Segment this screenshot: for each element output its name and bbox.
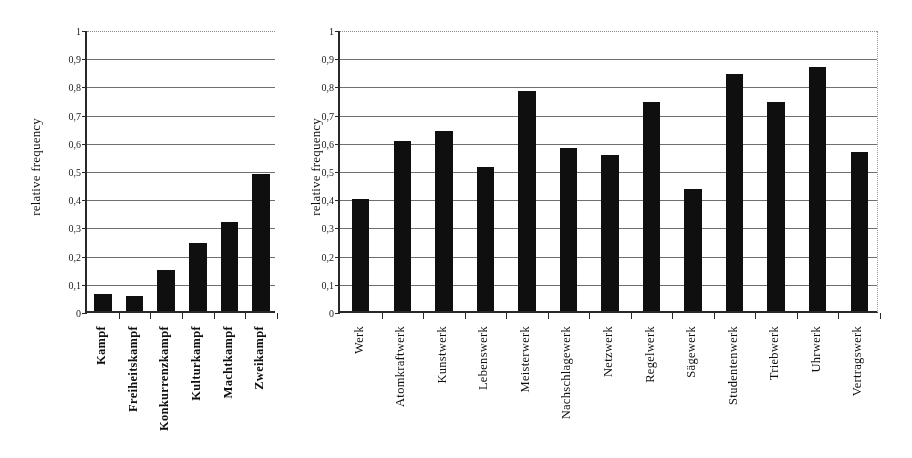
- x-tick-mark: [838, 313, 839, 319]
- x-axis-label: Nachschlagewerk: [559, 326, 574, 419]
- x-axis-label: Werk: [352, 326, 367, 354]
- x-tick-mark: [880, 313, 881, 319]
- bar: [477, 167, 494, 311]
- bar: [767, 102, 784, 311]
- y-tick-mark: [335, 144, 340, 145]
- x-axis-label: Konkurrenzkampf: [157, 326, 172, 431]
- x-axis-label: Vertragswerk: [850, 326, 865, 396]
- y-tick-label: 1: [76, 26, 81, 37]
- x-axis-label: Uhrwerk: [809, 326, 824, 373]
- chart-panel-werk: relative frequency 00,10,20,30,40,50,60,…: [300, 0, 912, 458]
- y-tick-mark: [82, 200, 87, 201]
- plot-area-werk: 00,10,20,30,40,50,60,70,80,91: [338, 31, 878, 313]
- x-tick-mark: [119, 313, 120, 319]
- y-tick-mark: [82, 285, 87, 286]
- gridline: [87, 285, 275, 286]
- x-tick-mark: [755, 313, 756, 319]
- gridline: [340, 31, 877, 32]
- y-tick-label: 0,3: [69, 223, 82, 234]
- gridline: [87, 144, 275, 145]
- bar-chart-figure: relative frequency 00,10,20,30,40,50,60,…: [0, 0, 912, 458]
- y-tick-label: 0,7: [69, 110, 82, 121]
- x-tick-mark: [589, 313, 590, 319]
- gridline: [340, 59, 877, 60]
- gridline: [340, 116, 877, 117]
- bar: [157, 270, 174, 311]
- plot-area-kampf: 00,10,20,30,40,50,60,70,80,91: [85, 31, 275, 313]
- y-tick-label: 0,7: [322, 110, 335, 121]
- x-axis-label: Regelwerk: [643, 326, 658, 383]
- y-tick-mark: [82, 87, 87, 88]
- y-tick-label: 0,2: [69, 251, 82, 262]
- gridline: [87, 116, 275, 117]
- y-tick-mark: [335, 31, 340, 32]
- y-tick-label: 0,8: [322, 82, 335, 93]
- y-tick-label: 0,5: [69, 167, 82, 178]
- y-tick-mark: [82, 172, 87, 173]
- x-tick-mark: [714, 313, 715, 319]
- y-tick-label: 0,2: [322, 251, 335, 262]
- bar: [851, 152, 868, 311]
- x-axis-label: Netzwerk: [601, 326, 616, 377]
- x-tick-mark: [465, 313, 466, 319]
- y-tick-mark: [335, 285, 340, 286]
- bar: [394, 141, 411, 311]
- gridline: [87, 87, 275, 88]
- x-axis-label: Zweikampf: [252, 326, 267, 390]
- bar: [601, 155, 618, 312]
- y-tick-mark: [82, 31, 87, 32]
- bar: [726, 74, 743, 311]
- y-tick-mark: [82, 59, 87, 60]
- x-tick-mark: [506, 313, 507, 319]
- bar: [94, 294, 111, 311]
- x-tick-mark: [672, 313, 673, 319]
- x-axis-label: Atomkraftwerk: [393, 326, 408, 407]
- y-tick-mark: [335, 116, 340, 117]
- y-tick-label: 0: [76, 308, 81, 319]
- x-tick-mark: [245, 313, 246, 319]
- y-tick-mark: [82, 228, 87, 229]
- y-tick-label: 1: [329, 26, 334, 37]
- gridline: [87, 172, 275, 173]
- gridline: [87, 257, 275, 258]
- y-tick-mark: [82, 257, 87, 258]
- bar: [189, 243, 206, 311]
- bar: [435, 131, 452, 311]
- x-axis-label: Studentenwerk: [726, 326, 741, 405]
- y-tick-mark: [335, 172, 340, 173]
- bar: [643, 102, 660, 311]
- x-axis-label: Meisterwerk: [518, 326, 533, 392]
- x-axis-label: Sägewerk: [684, 326, 699, 378]
- y-tick-mark: [335, 228, 340, 229]
- y-tick-label: 0,4: [322, 195, 335, 206]
- y-tick-mark: [335, 87, 340, 88]
- y-axis-title-left: relative frequency: [28, 118, 44, 216]
- y-tick-mark: [335, 200, 340, 201]
- y-tick-label: 0,9: [322, 54, 335, 65]
- x-axis-label: Freiheitskampf: [126, 326, 141, 412]
- x-tick-mark: [423, 313, 424, 319]
- bar: [684, 189, 701, 311]
- y-tick-mark: [82, 116, 87, 117]
- y-tick-label: 0,6: [69, 138, 82, 149]
- gridline: [340, 144, 877, 145]
- x-tick-mark: [214, 313, 215, 319]
- gridline: [340, 87, 877, 88]
- chart-panel-kampf: relative frequency 00,10,20,30,40,50,60,…: [0, 0, 300, 458]
- bar: [809, 67, 826, 311]
- x-axis-label: Triebwerk: [767, 326, 782, 380]
- y-tick-label: 0,8: [69, 82, 82, 93]
- y-tick-label: 0,5: [322, 167, 335, 178]
- y-tick-mark: [82, 313, 87, 314]
- x-tick-mark: [548, 313, 549, 319]
- x-tick-mark: [150, 313, 151, 319]
- x-axis-label: Kulturkampf: [189, 326, 204, 401]
- gridline: [87, 31, 275, 32]
- x-tick-mark: [277, 313, 278, 319]
- y-tick-label: 0,4: [69, 195, 82, 206]
- x-tick-mark: [182, 313, 183, 319]
- y-tick-label: 0: [329, 308, 334, 319]
- y-tick-mark: [335, 257, 340, 258]
- x-axis-label: Lebenswerk: [476, 326, 491, 390]
- x-tick-mark: [631, 313, 632, 319]
